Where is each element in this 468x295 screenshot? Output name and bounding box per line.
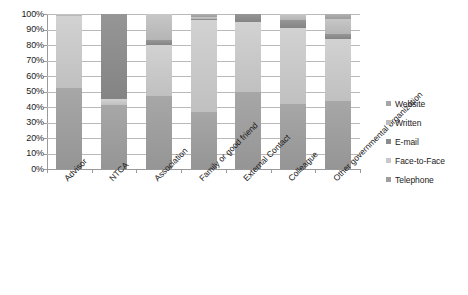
x-tick-mark	[47, 170, 48, 173]
bar-segment[interactable]	[146, 96, 172, 169]
x-tick-mark	[92, 170, 93, 173]
bar-segment[interactable]	[325, 14, 351, 19]
y-tick-mark	[44, 14, 47, 15]
y-tick-mark	[44, 61, 47, 62]
x-tick-mark	[226, 170, 227, 173]
bar-segment[interactable]	[325, 19, 351, 35]
y-tick-mark	[44, 123, 47, 124]
bar-segment[interactable]	[191, 17, 217, 19]
bar-segment[interactable]	[325, 39, 351, 101]
bar-segment[interactable]	[56, 16, 82, 89]
bar-segment[interactable]	[191, 19, 217, 21]
plot-area	[47, 14, 360, 169]
bar-column[interactable]	[146, 14, 172, 169]
legend-item[interactable]: Face-to-Face	[386, 151, 468, 170]
y-axis-tick-label: 10%	[4, 149, 44, 158]
stacked-bar-chart: 100%90%80%70%60%50%40%30%20%10%0% Adviso…	[0, 0, 468, 295]
y-axis-tick-label: 100%	[4, 10, 44, 19]
bar-column[interactable]	[325, 14, 351, 169]
y-tick-mark	[44, 92, 47, 93]
y-tick-mark	[44, 76, 47, 77]
bar-segment[interactable]	[191, 20, 217, 111]
x-tick-mark	[271, 170, 272, 173]
legend-label: E-mail	[395, 137, 419, 147]
bar-column[interactable]	[191, 14, 217, 169]
legend-item[interactable]: Written	[386, 113, 468, 132]
y-axis-tick-label: 50%	[4, 87, 44, 96]
legend-label: Website	[395, 99, 425, 109]
legend-item[interactable]: Telephone	[386, 170, 468, 189]
y-axis-tick-label: 40%	[4, 103, 44, 112]
bar-segment[interactable]	[235, 14, 261, 22]
y-axis-tick-label: 60%	[4, 72, 44, 81]
bar-segment[interactable]	[146, 40, 172, 45]
legend-item[interactable]: Website	[386, 94, 468, 113]
y-tick-mark	[44, 138, 47, 139]
legend-item[interactable]: E-mail	[386, 132, 468, 151]
legend-label: Written	[395, 118, 421, 128]
bar-column[interactable]	[101, 14, 127, 169]
legend-label: Face-to-Face	[395, 156, 445, 166]
bar-segment[interactable]	[101, 14, 127, 99]
bar-segment[interactable]	[56, 88, 82, 169]
y-axis-tick-label: 90%	[4, 25, 44, 34]
y-tick-mark	[44, 45, 47, 46]
x-tick-mark	[360, 170, 361, 173]
legend-swatch-icon	[386, 177, 391, 182]
bar-segment[interactable]	[146, 14, 172, 40]
y-tick-mark	[44, 107, 47, 108]
y-tick-mark	[44, 30, 47, 31]
bar-column[interactable]	[56, 14, 82, 169]
y-axis-tick-label: 70%	[4, 56, 44, 65]
legend-label: Telephone	[395, 175, 434, 185]
y-axis-tick-label: 0%	[4, 165, 44, 174]
legend-swatch-icon	[386, 158, 391, 163]
legend-swatch-icon	[386, 120, 391, 125]
y-tick-mark	[44, 154, 47, 155]
y-axis-labels: 100%90%80%70%60%50%40%30%20%10%0%	[0, 14, 44, 170]
bar-segment[interactable]	[280, 20, 306, 28]
y-axis-tick-label: 30%	[4, 118, 44, 127]
x-tick-mark	[136, 170, 137, 173]
legend-swatch-icon	[386, 139, 391, 144]
bar-segment[interactable]	[280, 14, 306, 20]
bar-segment[interactable]	[325, 34, 351, 39]
x-tick-mark	[181, 170, 182, 173]
bar-segment[interactable]	[56, 14, 82, 16]
bar-segment[interactable]	[235, 22, 261, 92]
legend-swatch-icon	[386, 101, 391, 106]
y-axis-tick-label: 20%	[4, 134, 44, 143]
x-tick-mark	[315, 170, 316, 173]
bar-segment[interactable]	[101, 99, 127, 105]
chart-legend: WebsiteWrittenE-mailFace-to-FaceTelephon…	[386, 94, 468, 189]
bar-segment[interactable]	[146, 45, 172, 96]
y-axis-tick-label: 80%	[4, 41, 44, 50]
bar-segment[interactable]	[191, 14, 217, 17]
bar-segment[interactable]	[280, 28, 306, 104]
